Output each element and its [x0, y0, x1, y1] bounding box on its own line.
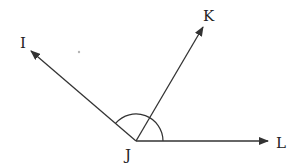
stray-dot	[78, 51, 80, 53]
label-k: K	[203, 7, 215, 25]
label-l: L	[276, 134, 286, 152]
ray-ji	[31, 51, 136, 141]
angle-diagram: I K L J	[0, 0, 301, 166]
diagram-svg: I K L J	[0, 0, 301, 166]
label-i: I	[20, 34, 26, 52]
angle-arc	[116, 114, 164, 141]
ray-jk	[136, 27, 203, 141]
label-j: J	[123, 146, 131, 164]
